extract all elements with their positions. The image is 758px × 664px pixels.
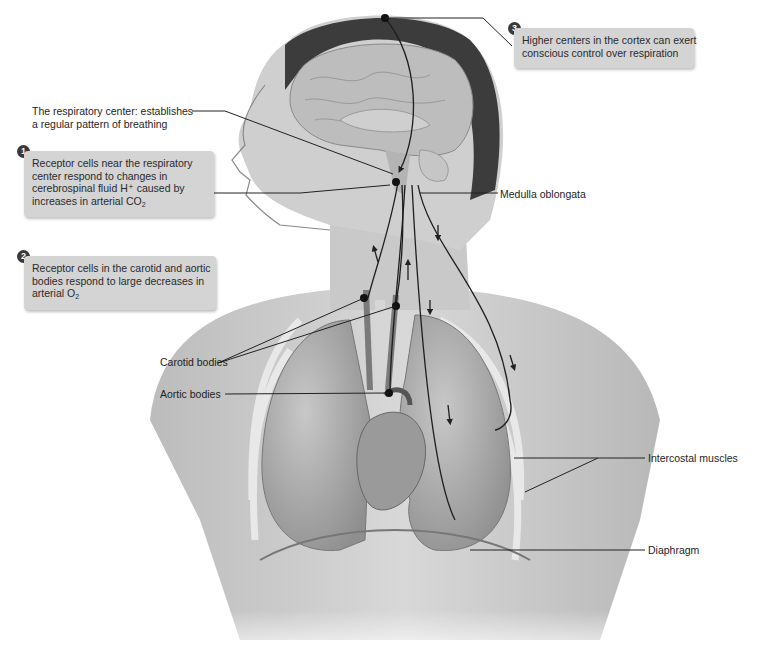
respiration-control-diagram: The respiratory center: establishes a re…: [0, 0, 758, 664]
anatomy-illustration: [0, 0, 758, 664]
aortic-label: Aortic bodies: [160, 388, 221, 401]
callout-1-line: center respond to changes in: [32, 170, 206, 183]
callout-2-line: bodies respond to large decreases in: [32, 275, 208, 288]
diaphragm-label: Diaphragm: [648, 544, 699, 557]
callout-1-line: increases in arterial CO2: [32, 195, 206, 212]
medulla-dot: [392, 178, 400, 186]
callout-2-line: Receptor cells in the carotid and aortic: [32, 262, 208, 275]
respiratory-center-line1: The respiratory center: establishes: [32, 105, 193, 118]
respiratory-center-label: The respiratory center: establishes a re…: [32, 105, 193, 130]
callout-1-text: increases in arterial CO: [32, 195, 142, 207]
carotid-label: Carotid bodies: [160, 356, 228, 369]
respiratory-center-line2: a regular pattern of breathing: [32, 118, 193, 131]
callout-1: Receptor cells near the respiratory cent…: [24, 151, 214, 217]
intercostal-label: Intercostal muscles: [648, 452, 738, 465]
callout-3-line: conscious control over respiration: [522, 47, 686, 60]
callout-2-line: arterial O2: [32, 287, 208, 304]
subscript: 2: [75, 293, 79, 300]
callout-2-text: arterial O: [32, 287, 75, 299]
callout-2: Receptor cells in the carotid and aortic…: [24, 256, 216, 310]
subscript: 2: [142, 201, 146, 208]
callout-3-line: Higher centers in the cortex can exert: [522, 34, 686, 47]
medulla-label: Medulla oblongata: [500, 188, 586, 201]
callout-1-line: Receptor cells near the respiratory: [32, 157, 206, 170]
callout-1-line: cerebrospinal fluid H⁺ caused by: [32, 182, 206, 195]
callout-3: Higher centers in the cortex can exert c…: [514, 28, 694, 68]
